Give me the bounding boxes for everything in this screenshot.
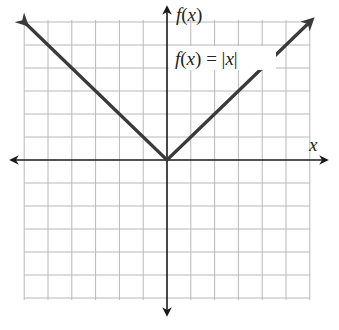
x-axis-label: x — [308, 134, 318, 155]
y-axis-label: f(x) — [176, 4, 202, 26]
function-label: f(x) = |x| — [175, 48, 238, 70]
absolute-value-graph: f(x) f(x) = |x| x — [0, 0, 339, 330]
